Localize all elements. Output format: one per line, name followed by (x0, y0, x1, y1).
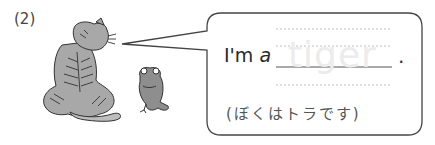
frog-illustration (139, 67, 168, 113)
tiger-illustration (44, 18, 121, 121)
prompt-article: a (259, 44, 271, 66)
prompt-prefix: I'm (224, 44, 253, 66)
prompt-sentence: I'm a (224, 44, 271, 66)
sentence-period: . (398, 44, 404, 68)
answer-hint-watermark: tiger (288, 34, 377, 75)
japanese-translation: (ぼくはトラです) (226, 102, 361, 123)
